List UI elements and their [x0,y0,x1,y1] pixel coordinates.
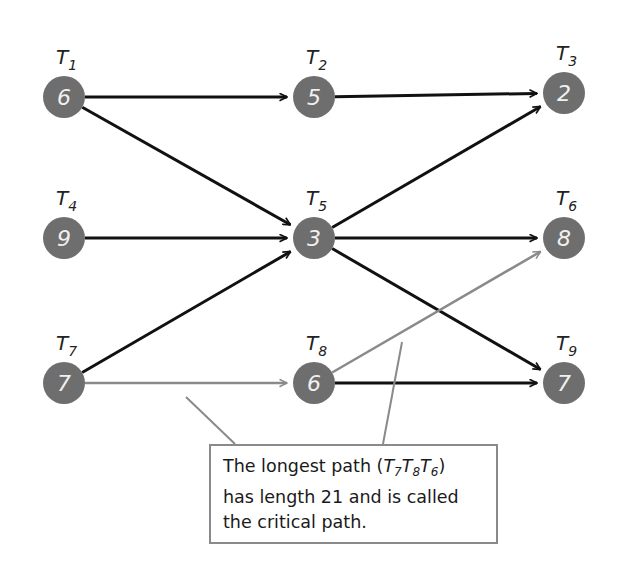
edge-t5-t9 [332,249,540,370]
node-duration: 8 [557,226,571,251]
node-label: T6 [556,186,577,214]
node-duration: 2 [557,81,571,106]
node-label: T9 [556,331,577,359]
node-duration: 7 [557,371,571,396]
node-t1: 6T1 [43,45,85,118]
edge-t5-t3 [332,107,540,228]
node-t9: 7T9 [543,331,585,404]
path-t7: T7 [383,456,401,476]
node-duration: 7 [57,371,71,396]
callout-line-1: The longest path (T7T8T6) [223,454,486,485]
node-t7: 7T7 [43,331,85,404]
node-t8: 6T8 [293,331,335,404]
node-t2: 5T2 [293,45,335,118]
callout-line-1-suffix: ) [438,456,445,476]
callout-line-2: has length 21 and is called [223,485,486,510]
path-t6: T6 [420,456,438,476]
node-t6: 8T6 [543,186,585,259]
node-label: T1 [56,45,77,73]
node-label: T4 [56,186,77,214]
leader-line-left [186,397,235,444]
node-duration: 9 [57,226,71,251]
node-t3: 2T3 [543,41,585,114]
node-t4: 9T4 [43,186,85,259]
node-duration: 5 [307,85,321,110]
critical-path-callout: The longest path (T7T8T6) has length 21 … [209,444,498,544]
node-label: T8 [306,331,327,359]
callout-line-1-prefix: The longest path ( [223,456,383,476]
node-label: T2 [306,45,327,73]
node-label: T3 [556,41,577,69]
edge-t7-t5 [82,252,290,373]
callout-line-3: the critical path. [223,510,486,535]
edge-t8-t6 [332,252,540,373]
edge-t1-t5 [82,107,290,224]
edge-t2-t3 [335,93,537,96]
node-t5: 3T5 [293,186,335,259]
node-duration: 6 [307,371,321,396]
node-label: T5 [306,186,327,214]
leader-line-right [383,342,402,444]
node-duration: 3 [307,226,321,251]
callout-leader-lines [186,342,402,444]
node-label: T7 [56,331,77,359]
path-t8: T8 [402,456,420,476]
node-duration: 6 [57,85,71,110]
